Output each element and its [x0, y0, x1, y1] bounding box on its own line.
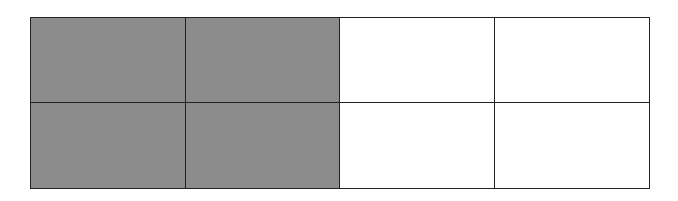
fraction-grid [30, 17, 650, 189]
unshaded-cell [340, 103, 495, 188]
shaded-cell [31, 103, 186, 188]
unshaded-cell [495, 18, 650, 103]
shaded-cell [186, 103, 341, 188]
shaded-cell [186, 18, 341, 103]
unshaded-cell [340, 18, 495, 103]
unshaded-cell [495, 103, 650, 188]
shaded-cell [31, 18, 186, 103]
